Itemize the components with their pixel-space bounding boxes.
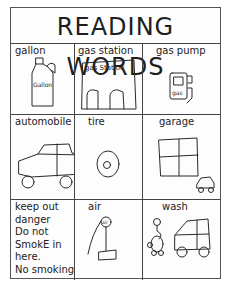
svg-text:gas: gas [172, 89, 183, 97]
cell-wash: wash [142, 199, 222, 280]
garage-icon [142, 114, 222, 199]
svg-text:Gallon: Gallon [33, 81, 52, 88]
cell-garage: garage [142, 114, 222, 199]
gallon-jug-icon: Gallon [11, 43, 74, 114]
cell-automobile: automobile [11, 114, 74, 199]
cell-gallon: gallon Gallon [11, 43, 74, 114]
cell-keep-out-sign: keep out danger Do not SmokE in here. No… [11, 199, 74, 280]
cell-gas-station: gas station gas Station [74, 43, 142, 114]
word-grid: gallon Gallon gas station gas Station ga… [11, 43, 220, 280]
chart-title: READING WORDS [11, 7, 220, 44]
car-wash-icon [142, 199, 222, 280]
word-label-multiline: keep out danger Do not SmokE in here. No… [15, 201, 74, 276]
tire-icon [74, 114, 142, 199]
svg-text:air: air [102, 220, 108, 225]
svg-text:gas Station: gas Station [85, 64, 125, 72]
gas-station-icon: gas Station [74, 43, 142, 114]
cell-gas-pump: gas pump gas [142, 43, 222, 114]
reading-words-chart: READING WORDS gallon Gallon gas station … [10, 7, 221, 279]
air-pump-icon: air [74, 199, 142, 280]
cell-tire: tire [74, 114, 142, 199]
car-icon [11, 114, 74, 199]
gas-pump-icon: gas [142, 43, 222, 114]
cell-air: air air [74, 199, 142, 280]
